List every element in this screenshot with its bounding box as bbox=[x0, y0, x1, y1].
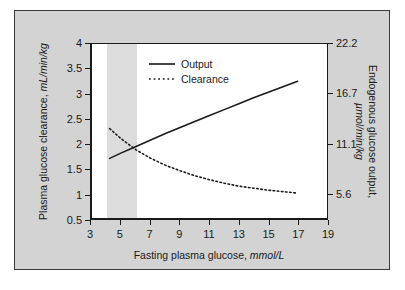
x-tick-label: 3 bbox=[75, 229, 105, 240]
y-left-tick-label: 3 bbox=[50, 88, 82, 99]
y-right-tick-mark bbox=[328, 194, 333, 195]
x-tick-label: 13 bbox=[224, 229, 254, 240]
y-left-tick-mark bbox=[85, 144, 90, 145]
y-left-tick-mark bbox=[85, 169, 90, 170]
legend-swatch-solid-icon bbox=[149, 59, 175, 69]
y-right-tick-mark bbox=[328, 43, 333, 44]
x-tick-mark bbox=[120, 220, 121, 225]
y-left-axis-title-main: Plasma glucose clearance, bbox=[37, 92, 49, 220]
legend-item-clearance: Clearance bbox=[149, 71, 229, 86]
y-left-tick-label: 1 bbox=[50, 189, 82, 200]
x-tick-mark bbox=[209, 220, 210, 225]
legend-swatch-dotted-icon bbox=[149, 74, 175, 84]
x-tick-mark bbox=[239, 220, 240, 225]
chart-panel: Output Clearance Plasma glucose clearanc… bbox=[14, 10, 390, 270]
legend-item-output: Output bbox=[149, 56, 229, 71]
y-right-tick-label: 22.2 bbox=[336, 38, 372, 49]
x-tick-label: 15 bbox=[254, 229, 284, 240]
x-tick-mark bbox=[328, 220, 329, 225]
y-right-tick-mark bbox=[328, 144, 333, 145]
series-line-output bbox=[110, 81, 298, 158]
x-tick-label: 17 bbox=[283, 229, 313, 240]
y-right-tick-mark bbox=[328, 93, 333, 94]
y-left-tick-label: 4 bbox=[50, 38, 82, 49]
chart-legend: Output Clearance bbox=[149, 56, 229, 86]
y-right-tick-label: 5.6 bbox=[336, 189, 372, 200]
x-tick-label: 9 bbox=[164, 229, 194, 240]
y-left-axis-title: Plasma glucose clearance, mL/min/kg bbox=[37, 43, 51, 220]
x-tick-mark bbox=[90, 220, 91, 225]
x-tick-label: 11 bbox=[194, 229, 224, 240]
x-tick-mark bbox=[269, 220, 270, 225]
y-left-tick-mark bbox=[85, 195, 90, 196]
legend-label-output: Output bbox=[181, 58, 213, 70]
y-left-axis-title-unit: mL/min/kg bbox=[37, 43, 49, 91]
x-axis-title-main: Fasting plasma glucose, bbox=[134, 249, 250, 261]
y-left-tick-mark bbox=[85, 94, 90, 95]
series-line-clearance bbox=[110, 129, 298, 194]
x-axis-title-unit: mmol/L bbox=[250, 249, 284, 261]
y-left-tick-label: 2.5 bbox=[50, 113, 82, 124]
y-left-tick-label: 1.5 bbox=[50, 164, 82, 175]
figure-root: Output Clearance Plasma glucose clearanc… bbox=[0, 0, 405, 290]
x-tick-mark bbox=[150, 220, 151, 225]
y-left-tick-label: 0.5 bbox=[50, 215, 82, 226]
y-left-tick-label: 2 bbox=[50, 139, 82, 150]
x-tick-mark bbox=[298, 220, 299, 225]
y-right-tick-label: 11.1 bbox=[336, 139, 372, 150]
x-tick-label: 5 bbox=[105, 229, 135, 240]
legend-label-clearance: Clearance bbox=[181, 73, 229, 85]
y-right-axis-title-main: Endogenous glucose output, bbox=[367, 65, 379, 198]
x-tick-label: 7 bbox=[135, 229, 165, 240]
x-tick-label: 19 bbox=[313, 229, 343, 240]
y-right-tick-label: 16.7 bbox=[336, 88, 372, 99]
y-left-tick-mark bbox=[85, 68, 90, 69]
y-left-tick-mark bbox=[85, 43, 90, 44]
y-left-tick-mark bbox=[85, 119, 90, 120]
y-right-axis-title-unit: µmol/min/kg bbox=[354, 103, 366, 160]
x-axis-title: Fasting plasma glucose, mmol/L bbox=[90, 249, 328, 261]
y-left-tick-label: 3.5 bbox=[50, 63, 82, 74]
x-tick-mark bbox=[179, 220, 180, 225]
